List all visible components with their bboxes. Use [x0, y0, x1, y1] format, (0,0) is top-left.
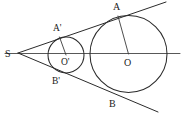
label-point-S: S	[5, 48, 11, 59]
label-point-B-prime: B'	[52, 76, 60, 86]
label-center-O-prime: O'	[61, 57, 70, 67]
label-center-O: O	[124, 57, 131, 68]
label-point-A: A	[113, 1, 121, 12]
label-point-B: B	[109, 98, 116, 109]
geometry-figure: S A B A' B' O O'	[0, 0, 185, 115]
geometry-canvas: S A B A' B' O O'	[0, 0, 185, 115]
label-point-A-prime: A'	[53, 23, 62, 33]
